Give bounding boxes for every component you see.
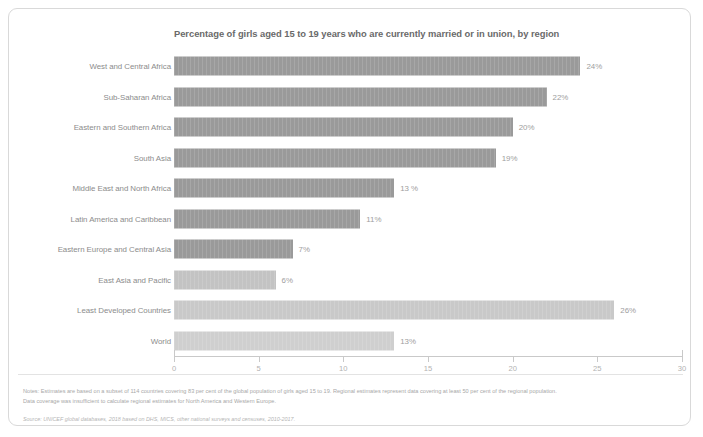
bar-fill bbox=[174, 209, 360, 228]
value-label: 13 % bbox=[400, 184, 418, 193]
bar-row: Eastern and Southern Africa20% bbox=[174, 112, 682, 143]
x-axis-tick-label: 15 bbox=[424, 364, 432, 373]
value-label: 7% bbox=[299, 245, 310, 254]
bar-row: Middle East and North Africa13 % bbox=[174, 173, 682, 204]
category-label: Middle East and North Africa bbox=[72, 184, 171, 193]
bar-fill bbox=[174, 301, 614, 320]
x-axis-tick-label: 0 bbox=[172, 364, 176, 373]
chart-title: Percentage of girls aged 15 to 19 years … bbox=[174, 28, 594, 40]
bar-row: Eastern Europe and Central Asia7% bbox=[174, 234, 682, 265]
bar-fill bbox=[174, 270, 276, 289]
bar-row: West and Central Africa24% bbox=[174, 51, 682, 82]
bar bbox=[174, 209, 360, 228]
value-label: 19% bbox=[502, 153, 518, 162]
plot-area: West and Central Africa24%Sub-Saharan Af… bbox=[174, 51, 682, 356]
x-axis-tick bbox=[343, 356, 344, 362]
x-axis-tick-label: 5 bbox=[257, 364, 261, 373]
value-label: 20% bbox=[519, 123, 535, 132]
x-axis-tick bbox=[682, 356, 683, 362]
category-label: Eastern Europe and Central Asia bbox=[58, 245, 171, 254]
bar-fill bbox=[174, 118, 513, 137]
chart-notes: Notes: Estimates are based on a subset o… bbox=[23, 387, 683, 406]
category-label: Eastern and Southern Africa bbox=[74, 123, 171, 132]
bar-row: Sub-Saharan Africa22% bbox=[174, 82, 682, 113]
value-label: 11% bbox=[366, 214, 381, 223]
x-axis-tick-label: 10 bbox=[339, 364, 347, 373]
bar bbox=[174, 118, 513, 137]
bar-row: Least Developed Countries26% bbox=[174, 295, 682, 326]
bar-row: East Asia and Pacific6% bbox=[174, 265, 682, 296]
x-axis-tick bbox=[597, 356, 598, 362]
notes-line-2: Data coverage was insufficient to calcul… bbox=[23, 397, 683, 407]
bar bbox=[174, 148, 496, 167]
bar-row: World13% bbox=[174, 326, 682, 357]
footnote-divider bbox=[18, 374, 683, 375]
category-label: South Asia bbox=[134, 153, 171, 162]
bar-fill bbox=[174, 240, 293, 259]
x-axis-tick-label: 25 bbox=[593, 364, 601, 373]
x-axis-tick bbox=[428, 356, 429, 362]
bar bbox=[174, 301, 614, 320]
bar bbox=[174, 240, 293, 259]
chart-source: Source: UNICEF global databases, 2018 ba… bbox=[23, 416, 683, 422]
category-label: Latin America and Caribbean bbox=[71, 214, 171, 223]
bar-fill bbox=[174, 57, 580, 76]
bar-fill bbox=[174, 148, 496, 167]
bar-fill bbox=[174, 87, 547, 106]
category-label: West and Central Africa bbox=[89, 62, 171, 71]
bar-row: South Asia19% bbox=[174, 143, 682, 174]
x-axis-tick bbox=[174, 356, 175, 362]
x-axis-tick bbox=[259, 356, 260, 362]
x-axis-tick-label: 30 bbox=[678, 364, 686, 373]
bar bbox=[174, 87, 547, 106]
notes-line-1: Notes: Estimates are based on a subset o… bbox=[23, 387, 683, 397]
chart-card: Percentage of girls aged 15 to 19 years … bbox=[8, 8, 691, 426]
bar bbox=[174, 331, 394, 350]
category-label: Least Developed Countries bbox=[77, 306, 171, 315]
bar bbox=[174, 270, 276, 289]
value-label: 26% bbox=[620, 306, 636, 315]
bar-row: Latin America and Caribbean11% bbox=[174, 204, 682, 235]
bar bbox=[174, 57, 580, 76]
x-axis-tick-label: 20 bbox=[508, 364, 516, 373]
bar bbox=[174, 179, 394, 198]
bar-fill bbox=[174, 179, 394, 198]
value-label: 24% bbox=[586, 62, 602, 71]
category-label: Sub-Saharan Africa bbox=[103, 92, 171, 101]
value-label: 22% bbox=[553, 92, 569, 101]
x-axis-tick bbox=[513, 356, 514, 362]
value-label: 6% bbox=[282, 275, 293, 284]
value-label: 13% bbox=[400, 336, 416, 345]
bar-fill bbox=[174, 331, 394, 350]
category-label: World bbox=[151, 336, 171, 345]
category-label: East Asia and Pacific bbox=[98, 275, 171, 284]
